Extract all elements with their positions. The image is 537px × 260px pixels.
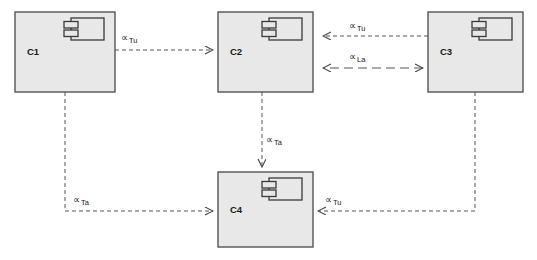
stereotype-symbol: ∝ (349, 20, 356, 31)
stereotype-symbol: ∝ (73, 194, 80, 205)
stereotype-subscript: Ta (81, 198, 90, 207)
component-name-label: C1 (27, 46, 40, 57)
connection-c3-to-c4 (318, 92, 475, 211)
edge-label-c3-to-c4: ∝Tu (325, 194, 341, 207)
component-c3[interactable]: C3 (428, 12, 523, 92)
diagram-svg-canvas: C1C2C3C4 ∝Tu∝Tu∝La∝Ta∝Ta∝Tu (0, 0, 537, 260)
connection-c1-to-c4 (65, 92, 213, 211)
component-name-label: C4 (230, 204, 243, 215)
stereotype-subscript: Tu (357, 24, 365, 33)
stereotype-symbol: ∝ (266, 134, 273, 145)
stereotype-symbol: ∝ (121, 32, 128, 43)
component-c2[interactable]: C2 (218, 12, 313, 92)
component-c4[interactable]: C4 (218, 172, 313, 247)
edge-label-c1-to-c2: ∝Tu (121, 32, 137, 45)
stereotype-subscript: Tu (129, 36, 137, 45)
stereotype-subscript: La (357, 55, 366, 64)
components-layer: C1C2C3C4 (15, 12, 523, 247)
edge-label-c1-to-c4: ∝Ta (73, 194, 90, 207)
component-name-label: C2 (230, 46, 242, 57)
component-name-label: C3 (440, 46, 452, 57)
edge-label-c3-to-c2-tu: ∝Tu (349, 20, 365, 33)
stereotype-subscript: Tu (333, 198, 341, 207)
uml-component-diagram: C1C2C3C4 ∝Tu∝Tu∝La∝Ta∝Ta∝Tu (0, 0, 537, 260)
edge-label-c2-to-c4: ∝Ta (266, 134, 283, 147)
edge-label-c3-to-c2-la: ∝La (349, 51, 366, 64)
stereotype-subscript: Ta (274, 138, 283, 147)
stereotype-symbol: ∝ (349, 51, 356, 62)
stereotype-symbol: ∝ (325, 194, 332, 205)
component-c1[interactable]: C1 (15, 12, 115, 92)
